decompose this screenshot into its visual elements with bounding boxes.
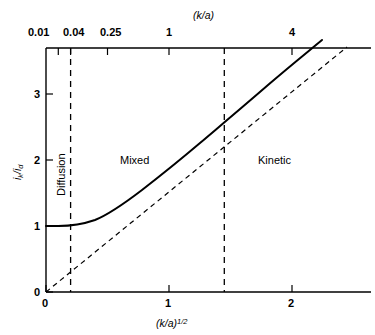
- y-axis-title-denominator-subscript: d: [16, 164, 25, 168]
- top-tick-label-4: 4: [289, 27, 295, 38]
- asymptote-line: [46, 47, 347, 292]
- y-tick-label-2: 2: [34, 155, 40, 166]
- region-label-diffusion: Diffusion: [56, 153, 67, 196]
- top-axis-title: (k/a): [193, 10, 214, 21]
- x-tick-label-2: 2: [288, 298, 294, 309]
- top-tick-label-2: 0.25: [100, 27, 121, 38]
- y-tick-label-1: 1: [34, 221, 40, 232]
- chart-figure: (k/a) 0.01 0.04 0.25 1 4 0 1 2 3 0 1 2 (…: [0, 0, 375, 335]
- x-tick-label-1: 1: [165, 298, 171, 309]
- x-axis-title-exponent: 1/2: [177, 317, 187, 326]
- y-axis-title-numerator-subscript: k: [16, 174, 25, 178]
- x-axis-title-base: (k/a): [156, 317, 177, 329]
- y-tick-label-3: 3: [34, 89, 40, 100]
- top-tick-label-1: 0.04: [63, 27, 84, 38]
- y-axis-title-numerator: i: [11, 178, 23, 180]
- x-tick-label-0: 0: [42, 298, 48, 309]
- region-label-kinetic: Kinetic: [258, 155, 291, 166]
- top-tick-label-3: 1: [166, 27, 172, 38]
- x-axis-title: (k/a)1/2: [156, 318, 187, 329]
- top-tick-label-0: 0.01: [28, 27, 49, 38]
- y-tick-label-0: 0: [34, 287, 40, 298]
- region-label-mixed: Mixed: [120, 155, 149, 166]
- y-axis-ticks: [46, 94, 53, 292]
- y-axis-title: ik/id: [12, 164, 24, 180]
- curve-ik-id: [46, 40, 322, 226]
- top-axis-ticks: [58, 48, 292, 55]
- x-axis-ticks: [46, 285, 292, 292]
